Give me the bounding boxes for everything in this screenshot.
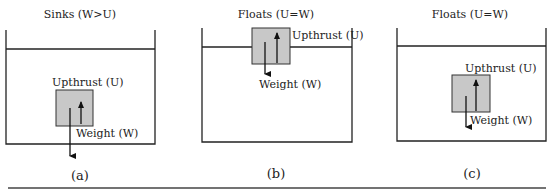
upthrust-label-b: Upthrust (U) (292, 29, 364, 42)
block-c (452, 75, 490, 112)
caption-a: (a) (71, 168, 89, 183)
buoyancy-diagram: Sinks (W>U) Upthrust (U) Weight (W) (a) … (0, 0, 550, 191)
caption-c: (c) (463, 166, 480, 181)
upthrust-label-c: Upthrust (U) (465, 62, 537, 75)
weight-label-b: Weight (W) (259, 78, 321, 91)
panel-c: Floats (U=W) Upthrust (U) Weight (W) (c) (397, 8, 546, 181)
panel-a: Sinks (W>U) Upthrust (U) Weight (W) (a) (6, 8, 155, 183)
block-b (252, 28, 290, 64)
panel-c-title: Floats (U=W) (432, 8, 508, 21)
panel-b: Floats (U=W) Upthrust (U) Weight (W) (b) (202, 8, 364, 181)
caption-b: (b) (267, 166, 285, 181)
block-a (56, 90, 93, 126)
panel-b-title: Floats (U=W) (238, 8, 314, 21)
weight-label-c: Weight (W) (470, 114, 532, 127)
upthrust-label-a: Upthrust (U) (52, 76, 124, 89)
weight-label-a: Weight (W) (76, 127, 138, 140)
panel-a-title: Sinks (W>U) (44, 8, 116, 21)
